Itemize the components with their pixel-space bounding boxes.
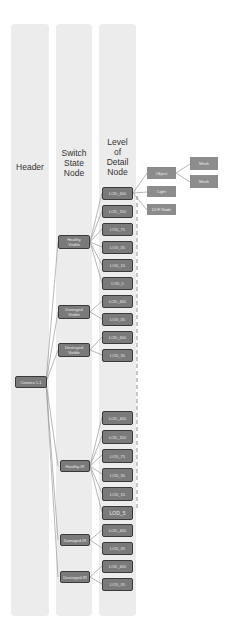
- lod-node[interactable]: LOD_400: [102, 295, 133, 308]
- lod-node[interactable]: LOD_400: [102, 331, 133, 344]
- column-switch-state: Switch State Node: [56, 24, 92, 616]
- switch-node-destroyed-ir[interactable]: Destroyed-IR: [60, 571, 90, 583]
- mesh-node-1[interactable]: Mesh: [190, 157, 218, 170]
- lod-node[interactable]: LOD_400: [102, 411, 133, 425]
- lod-node[interactable]: LOD_35: [102, 578, 133, 591]
- switch-node-healthy-ir[interactable]: Healthy-IR: [60, 460, 90, 472]
- lod-node[interactable]: LOD_5: [102, 506, 133, 520]
- lod-node[interactable]: LOD_150: [102, 205, 133, 218]
- column-header-title: Header: [11, 162, 49, 172]
- switch-node-healthy-visible[interactable]: Healthy Visible: [58, 235, 90, 249]
- lod-node[interactable]: LOD_150: [102, 430, 133, 444]
- lod-node[interactable]: LOD_400: [102, 560, 133, 573]
- root-node-camera[interactable]: Camera 1-1: [15, 376, 47, 388]
- lod-node[interactable]: LOD_5: [102, 277, 133, 290]
- column-switch-title: Switch State Node: [56, 148, 92, 178]
- lod-node[interactable]: LOD_15: [102, 259, 133, 272]
- column-header: Header: [11, 24, 49, 616]
- lod-node[interactable]: LOD_15: [102, 487, 133, 501]
- lod-node[interactable]: LOD_75: [102, 223, 133, 236]
- lod-node[interactable]: LOD_35: [102, 313, 133, 326]
- dof-node[interactable]: DOF Node: [147, 204, 176, 215]
- lod-node[interactable]: LOD_35: [102, 349, 133, 362]
- lod-node[interactable]: LOD_35: [102, 241, 133, 254]
- object-node[interactable]: Object: [147, 167, 176, 179]
- switch-node-destroyed-visible[interactable]: Destroyed Visible: [58, 343, 90, 357]
- lod-node[interactable]: LOD_400: [102, 187, 133, 200]
- switch-node-damaged-visible[interactable]: Damaged Visible: [58, 305, 90, 319]
- mesh-node-2[interactable]: Mesh: [190, 175, 218, 188]
- lod-node[interactable]: LOD_35: [102, 468, 133, 482]
- lod-node[interactable]: LOD_75: [102, 449, 133, 463]
- column-lod-title: Level of Detail Node: [99, 137, 136, 177]
- switch-node-damaged-ir[interactable]: Damaged-IR: [60, 534, 90, 546]
- light-node[interactable]: Light: [147, 186, 176, 197]
- lod-node[interactable]: LOD_400: [102, 524, 133, 537]
- lod-node[interactable]: LOD_35: [102, 542, 133, 555]
